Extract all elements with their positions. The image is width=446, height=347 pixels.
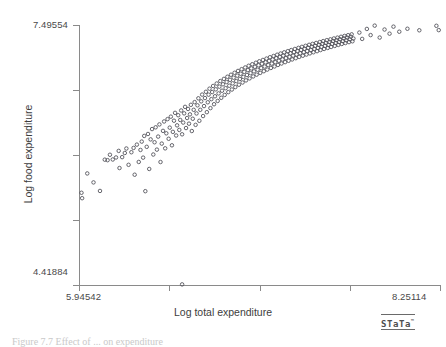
- scatter-point: [241, 81, 245, 85]
- scatter-point: [180, 133, 184, 137]
- scatter-point: [199, 108, 203, 112]
- scatter-point: [215, 82, 219, 86]
- scatter-point: [191, 117, 195, 121]
- scatter-point: [130, 150, 134, 154]
- scatter-point: [158, 123, 162, 127]
- scatter-point: [169, 115, 173, 119]
- scatter-point: [365, 27, 369, 31]
- scatter-point: [202, 104, 206, 108]
- scatter-point: [194, 123, 198, 127]
- scatter-point: [212, 102, 216, 106]
- scatter-point: [159, 160, 163, 164]
- scatter-point: [251, 75, 255, 79]
- scatter-point: [180, 283, 184, 287]
- scatter-point: [210, 97, 214, 101]
- scatter-point: [92, 181, 96, 185]
- scatter-point: [132, 146, 136, 150]
- scatter-point: [139, 148, 143, 152]
- scatter-point: [127, 163, 131, 167]
- scatter-point: [207, 93, 211, 97]
- scatter-point: [216, 99, 220, 103]
- scatter-point: [172, 119, 176, 123]
- scatter-point: [235, 79, 239, 83]
- scatter-point: [238, 77, 242, 81]
- scatter-point: [146, 132, 150, 136]
- scatter-point: [187, 122, 191, 126]
- scatter-point: [210, 90, 214, 94]
- scatter-point: [150, 127, 154, 131]
- scatter-point: [245, 73, 249, 77]
- scatter-point: [228, 78, 232, 82]
- scatter-point: [173, 111, 177, 115]
- scatter-point: [224, 86, 228, 90]
- scatter-point: [220, 89, 224, 93]
- scatter-point: [141, 156, 145, 160]
- scatter-point: [188, 113, 192, 117]
- scatter-point: [123, 151, 127, 155]
- scatter-point: [152, 153, 156, 157]
- scatter-point: [205, 110, 209, 114]
- scatter-point: [175, 124, 179, 128]
- scatter-point: [162, 120, 166, 124]
- scatter-point: [147, 167, 151, 171]
- scatter-point: [239, 72, 243, 76]
- scatter-point: [200, 93, 204, 97]
- stata-logo: STaTa™: [381, 314, 415, 330]
- scatter-point: [117, 149, 121, 153]
- scatter-point: [163, 147, 167, 151]
- scatter-point: [378, 36, 382, 40]
- scatter-point: [144, 189, 148, 193]
- scatter-point: [125, 147, 128, 151]
- scatter-point: [213, 95, 217, 99]
- trademark-mark: ™: [411, 318, 415, 324]
- scatter-point: [206, 101, 210, 105]
- scatter-point: [208, 87, 212, 91]
- scatter-point: [193, 100, 197, 104]
- scatter-point: [250, 67, 254, 71]
- scatter-point: [160, 142, 164, 146]
- scatter-point: [258, 71, 262, 75]
- scatter-point: [179, 109, 183, 113]
- scatter-point: [255, 73, 259, 77]
- figure-container: 7.49554 4.41884 5.94542 8.25114 Log tota…: [0, 0, 446, 347]
- scatter-point: [373, 24, 377, 28]
- scatter-point: [406, 27, 410, 31]
- scatter-point: [230, 88, 234, 92]
- scatter-point: [398, 30, 402, 34]
- scatter-point: [192, 108, 196, 112]
- scatter-point: [297, 55, 301, 59]
- scatter-point: [218, 85, 222, 89]
- scatter-point: [266, 63, 270, 67]
- scatter-point: [243, 70, 247, 74]
- scatter-point: [242, 75, 246, 79]
- scatter-point: [232, 76, 236, 80]
- scatter-point: [168, 126, 172, 130]
- scatter-point: [301, 54, 305, 58]
- scatter-point: [220, 96, 224, 100]
- scatter-point: [244, 79, 248, 83]
- scatter-point: [186, 107, 190, 111]
- scatter-point: [86, 172, 90, 176]
- scatter-point: [249, 71, 253, 75]
- scatter-point: [154, 126, 158, 130]
- scatter-point: [253, 65, 256, 69]
- scatter-point: [182, 112, 186, 116]
- scatter-point: [142, 134, 146, 138]
- scatter-point: [383, 28, 387, 32]
- scatter-point: [269, 66, 273, 70]
- scatter-point: [276, 63, 280, 67]
- scatter-point: [222, 77, 226, 81]
- scatter-point: [165, 132, 169, 136]
- scatter-point: [140, 140, 144, 144]
- scatter-point: [199, 100, 203, 104]
- scatter-point: [170, 144, 174, 148]
- scatter-point: [80, 191, 84, 195]
- scatter-point: [231, 82, 235, 86]
- scatter-point: [203, 96, 207, 100]
- scatter-point: [234, 85, 238, 89]
- scatter-point: [256, 68, 260, 72]
- scatter-point: [167, 137, 171, 141]
- scatter-point: [287, 59, 291, 63]
- stata-logo-text: STaTa: [381, 319, 411, 329]
- scatter-point: [185, 116, 189, 120]
